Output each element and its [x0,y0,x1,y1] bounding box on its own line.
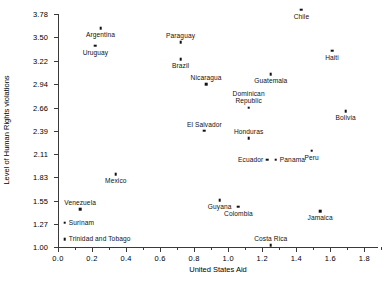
data-point [79,208,82,211]
x-axis-tick: 1.6 [330,247,331,252]
x-axis-tick-label: 1.2 [257,254,268,263]
y-axis-title: Level of Human Rights violations [2,75,11,184]
data-point-label: Uruguay [83,49,109,56]
data-point [247,107,250,110]
x-axis-tick-label: 0.6 [154,254,165,263]
x-axis-tick-label: 1.8 [359,254,370,263]
data-point-label: Brazil [172,62,189,69]
y-axis-tick-label: 1.55 [33,196,48,205]
x-axis-minor-tick [347,247,348,250]
data-point [269,244,272,247]
y-axis-tick-label: 2.39 [33,126,48,135]
data-point-label: Dominican Republic [233,90,265,105]
x-axis-minor-tick [75,247,76,250]
x-axis-tick: 0.2 [92,247,93,252]
data-point [64,238,67,241]
data-point-label: Surinam [69,219,94,226]
data-point-label: Paraguay [166,32,195,39]
data-point [179,41,182,44]
plot-area: ArgentinaUruguayParaguayBrazilChileHaiti… [58,14,378,247]
data-point [218,199,221,202]
y-axis-tick-label: 3.50 [33,33,48,42]
data-point-label: Argentina [86,31,115,38]
y-axis-tick-label: 1.00 [33,243,48,252]
y-axis-tick-label: 1.27 [33,220,48,229]
x-axis-tick-label: 1.0 [223,254,234,263]
scatter-chart: 3.783.503.222.942.662.392.111.831.551.27… [0,0,390,287]
data-point-label: Costa Rica [254,235,287,242]
x-axis-minor-tick [109,247,110,250]
data-point-label: Nicaragua [191,74,222,81]
x-axis-tick: 1.2 [262,247,263,252]
y-axis-tick-label: 2.11 [34,149,48,158]
x-axis-minor-tick [143,247,144,250]
y-axis-tick-label: 1.83 [33,173,48,182]
data-point [331,50,334,53]
x-axis-minor-tick [245,247,246,250]
data-point-label: Chile [294,13,310,20]
x-axis-tick-label: 0.0 [52,254,63,263]
data-point-label: Colombia [224,210,253,217]
x-axis-tick: 1.8 [364,247,365,252]
data-point-label: Trinidad and Tobago [69,236,131,243]
x-axis-tick-label: 0.2 [86,254,97,263]
data-point-label: Haiti [325,54,339,61]
y-axis-tick-label: 2.94 [33,80,48,89]
x-axis-tick: 0.0 [58,247,59,252]
data-point [275,159,278,162]
x-axis-tick: 0.6 [160,247,161,252]
y-axis-tick-label: 3.22 [33,56,48,65]
data-point [115,173,118,176]
x-axis-minor-tick [381,247,382,250]
data-point [205,83,208,86]
data-point [247,137,250,140]
x-axis-tick: 1.0 [228,247,229,252]
data-point [266,159,269,162]
x-axis-tick: 0.8 [194,247,195,252]
y-axis-tick-label: 3.78 [33,10,48,19]
x-axis-tick-label: 1.6 [325,254,336,263]
data-point-label: Jamaica [307,214,332,221]
data-point-label: El Salvador [187,120,222,127]
data-point [237,205,240,208]
data-point-label: Venezuela [64,199,96,206]
data-point [310,149,313,152]
data-point [64,221,67,224]
y-axis-tick-label: 2.66 [33,103,48,112]
x-axis-minor-tick [313,247,314,250]
data-point [94,45,97,48]
data-point-label: Panama [280,156,305,163]
x-axis-tick: 0.4 [126,247,127,252]
x-axis-tick-label: 0.8 [188,254,199,263]
x-axis-line: 0.00.20.40.60.81.01.21.41.61.8 [58,247,378,248]
x-axis-tick: 1.4 [296,247,297,252]
data-point-label: Ecuador [238,156,263,163]
data-point [344,110,347,113]
x-axis-tick-label: 1.4 [291,254,302,263]
x-axis-minor-tick [177,247,178,250]
x-axis-minor-tick [279,247,280,250]
data-point-label: Mexico [105,177,127,184]
data-point [203,129,206,132]
data-point-label: Honduras [234,128,263,135]
x-axis-tick-label: 0.4 [120,254,131,263]
data-point [99,27,102,30]
x-axis-title: United States Aid [189,265,247,274]
data-point [319,210,322,213]
data-point [179,58,182,61]
data-point-label: Guatemala [254,77,287,84]
data-point-label: Bolivia [336,114,356,121]
data-point [269,73,272,76]
x-axis-minor-tick [211,247,212,250]
data-point-label: Peru [304,154,318,161]
data-point [300,9,303,12]
